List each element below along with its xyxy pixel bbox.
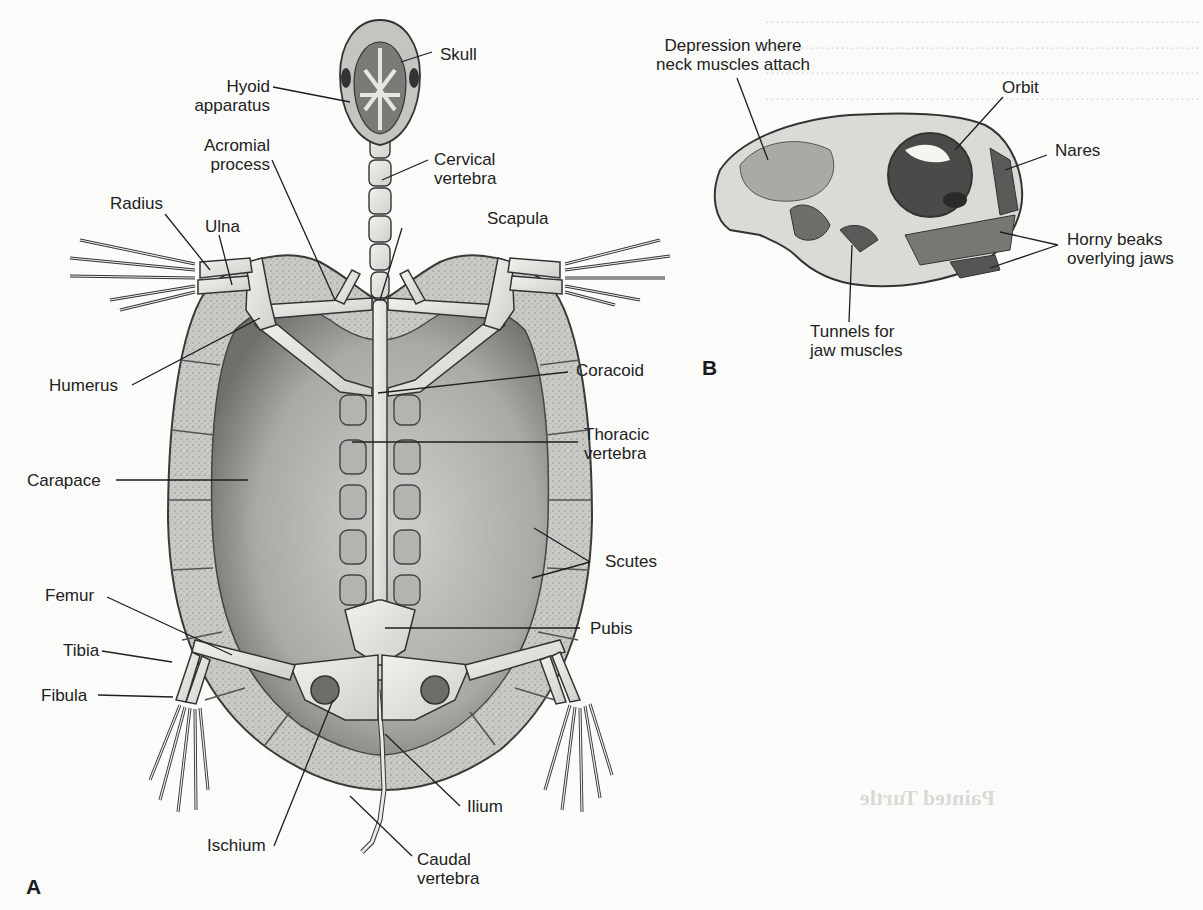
label-hyoid-line2: apparatus (186, 96, 270, 115)
label-ilium: Ilium (467, 797, 503, 816)
skull-lateral-b (715, 113, 1022, 286)
label-orbit: Orbit (1002, 78, 1039, 97)
label-skull: Skull (440, 45, 477, 64)
label-ischium: Ischium (207, 836, 266, 855)
label-tunnels-line2: jaw muscles (810, 341, 903, 360)
label-cervical-line1: Cervical (434, 150, 496, 169)
label-tibia: Tibia (63, 641, 99, 660)
label-scapula: Scapula (487, 209, 548, 228)
label-femur: Femur (45, 586, 94, 605)
label-depression-line1: Depression where (633, 36, 833, 55)
label-acromial-line1: Acromial (190, 136, 270, 155)
label-tunnels-line1: Tunnels for (810, 322, 903, 341)
label-caudal-line2: vertebra (417, 869, 479, 888)
label-humerus: Humerus (49, 376, 118, 395)
panel-label-b: B (702, 356, 717, 380)
label-radius: Radius (110, 194, 163, 213)
label-depression: Depression where neck muscles attach (633, 36, 833, 74)
label-tunnels: Tunnels for jaw muscles (810, 322, 903, 360)
label-caudal-vertebra: Caudal vertebra (417, 850, 479, 888)
label-cervical-line2: vertebra (434, 169, 496, 188)
label-beaks-line2: overlying jaws (1067, 249, 1174, 268)
label-ulna: Ulna (205, 217, 240, 236)
label-horny-beaks: Horny beaks overlying jaws (1067, 230, 1174, 268)
label-depression-line2: neck muscles attach (633, 55, 833, 74)
label-nares: Nares (1055, 141, 1100, 160)
label-fibula: Fibula (41, 686, 87, 705)
panel-label-a: A (26, 875, 41, 899)
label-hyoid-line1: Hyoid (186, 77, 270, 96)
skull-a (340, 20, 420, 145)
label-thoracic-line2: vertebra (584, 444, 649, 463)
label-beaks-line1: Horny beaks (1067, 230, 1174, 249)
label-pubis: Pubis (590, 619, 633, 638)
label-scutes: Scutes (605, 552, 657, 571)
label-cervical-vertebra: Cervical vertebra (434, 150, 496, 188)
label-acromial-process: Acromial process (190, 136, 270, 174)
label-thoracic-vertebra: Thoracic vertebra (584, 425, 649, 463)
label-caudal-line1: Caudal (417, 850, 479, 869)
label-coracoid: Coracoid (576, 361, 644, 380)
label-hyoid-apparatus: Hyoid apparatus (186, 77, 270, 115)
label-acromial-line2: process (190, 155, 270, 174)
label-thoracic-line1: Thoracic (584, 425, 649, 444)
label-carapace: Carapace (27, 471, 101, 490)
